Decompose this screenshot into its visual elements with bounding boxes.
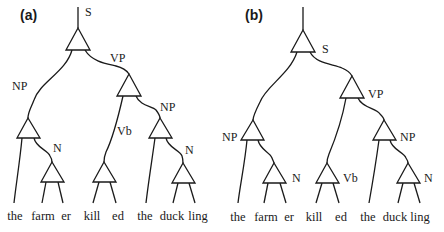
word-farm-b: farm [254,210,278,224]
edge-s-np-b [253,52,297,120]
edge-vp-np-b [358,98,384,120]
label-n-farmer-b: N [292,171,301,185]
node-vp-triangle-b [340,76,364,98]
edge-n-farm [42,182,46,203]
node-np-subject-triangle [17,118,40,138]
label-vp: VP [110,51,126,65]
label-vb-b: Vb [343,171,358,185]
edge-vp-vb-b [327,98,346,163]
label-vp-b: VP [368,87,384,101]
word-the-2: the [137,209,153,223]
edge-n-duck [173,183,178,203]
edge-n-er-b [280,183,286,203]
word-farm: farm [31,209,55,223]
label-vb: Vb [117,124,132,138]
node-vp-triangle [117,74,141,96]
edge-n-ling [189,183,195,203]
node-s-triangle [66,28,90,50]
label-np-subject-b: NP [222,130,238,144]
word-the: the [7,209,23,223]
node-np-object-triangle-b [373,120,396,140]
edge-s-np [28,50,72,118]
word-ed-b: ed [335,210,348,224]
node-np-subject-triangle-b [241,120,264,140]
node-n-farmer-triangle [41,162,64,182]
edge-np-the-b [238,140,247,203]
edge-s-vp-b [310,52,352,76]
label-np-object-b: NP [400,130,416,144]
edge-n-ling-b [414,183,420,203]
panel-a-label: (a) [20,7,37,23]
edge-n-er [58,182,63,203]
edge-n-farm-b [264,183,268,203]
edge-vb-ed [110,182,116,203]
label-n-duckling: N [185,143,194,157]
node-n-farmer-triangle-b [263,163,286,183]
parse-tree-diagram: (a) S NP VP Vb NP N N [0,0,444,232]
word-the-b: the [230,210,246,224]
panel-a: (a) S NP VP Vb NP N N [7,5,208,223]
node-n-duckling-triangle-b [397,163,420,183]
label-n-farmer: N [53,141,62,155]
label-s: S [85,5,92,19]
label-np-object: NP [160,100,176,114]
edge-vb-kill [93,182,99,203]
edge-np-the [14,138,22,203]
edge-vb-kill-b [316,183,322,203]
word-er-b: er [284,210,295,224]
word-duck: duck [160,209,185,223]
word-ling: ling [188,209,208,223]
word-kill-b: kill [306,210,323,224]
edge-vb-ed-b [333,183,339,203]
node-vb-triangle-b [316,163,339,183]
label-n-duckling-b: N [424,171,433,185]
edge-n-duck-b [398,183,403,203]
word-ed: ed [112,209,125,223]
edge-np-n-b [258,140,274,163]
word-duck-b: duck [383,210,408,224]
word-er: er [61,209,72,223]
edge-np-n [34,138,52,162]
edge-np-the-2 [146,138,155,203]
node-vb-triangle [93,162,116,182]
node-np-object-triangle [149,118,172,138]
word-the-2-b: the [360,210,376,224]
edge-vp-np [136,96,160,118]
node-s-triangle-b [291,30,315,52]
label-s-b: S [322,42,329,56]
word-kill: kill [84,209,101,223]
edge-np-the-2-b [369,140,379,203]
node-n-duckling-triangle [172,163,195,183]
label-np-subject: NP [12,79,28,93]
panel-b-label: (b) [245,7,263,23]
panel-b: (b) S VP NP N Vb NP N [222,7,433,224]
word-ling-b: ling [410,210,430,224]
edge-np-n-2 [166,138,183,163]
